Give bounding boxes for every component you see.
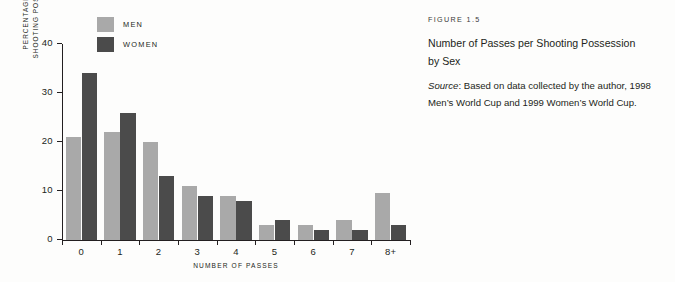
figure-source-text: : Based on data collected by the author,… <box>428 80 651 108</box>
bar-women-7 <box>352 230 368 240</box>
y-axis-tick: 30 <box>57 92 62 93</box>
y-axis-title-line-1: PERCENTAGE OF ALL <box>21 0 31 49</box>
figure-source-label: Source <box>428 80 458 91</box>
x-axis-tick <box>294 240 295 245</box>
bar-chart: PERCENTAGE OF ALL SHOOTING POSSESSIONS 0… <box>0 0 420 282</box>
bar-men-0 <box>66 137 82 240</box>
bar-men-7 <box>336 220 352 240</box>
plot-area: 010203040 012345678+ <box>62 44 410 240</box>
bar-women-2 <box>159 176 175 240</box>
x-axis-tick-label: 5 <box>272 246 278 257</box>
bar-women-4 <box>236 201 252 240</box>
x-axis-tick-label: 0 <box>79 246 85 257</box>
y-axis-tick: 10 <box>57 190 62 191</box>
legend-item-women: WOMEN <box>97 34 158 54</box>
x-axis-tick-label: 6 <box>311 246 317 257</box>
x-axis-tick <box>371 240 372 245</box>
figure-title: Number of Passes per Shooting Possession… <box>428 35 638 70</box>
x-axis-tick <box>178 240 179 245</box>
legend: MEN WOMEN <box>97 14 158 54</box>
x-axis-tick <box>139 240 140 245</box>
bar-men-3 <box>182 186 198 240</box>
x-axis-tick <box>255 240 256 245</box>
bar-women-0 <box>82 73 98 240</box>
bar-women-5 <box>275 220 291 240</box>
bar-men-1 <box>104 132 120 240</box>
figure-source: Source: Based on data collected by the a… <box>428 77 656 111</box>
x-axis-tick-label: 7 <box>349 246 355 257</box>
legend-item-men: MEN <box>97 14 158 34</box>
bar-women-1 <box>120 113 136 240</box>
legend-swatch-women-icon <box>97 37 114 52</box>
y-axis-title-line-2: SHOOTING POSSESSIONS <box>31 0 41 59</box>
legend-swatch-men-icon <box>97 17 114 32</box>
x-axis-line <box>62 240 410 241</box>
x-axis-tick <box>217 240 218 245</box>
figure-caption: FIGURE 1.5 Number of Passes per Shooting… <box>428 15 668 111</box>
y-axis-tick: 40 <box>57 43 62 44</box>
bar-women-6 <box>314 230 330 240</box>
y-axis-tick-label: 40 <box>42 37 53 48</box>
legend-label-men: MEN <box>123 20 143 29</box>
bar-men-5 <box>259 225 275 240</box>
x-axis-title: NUMBER OF PASSES <box>62 262 410 269</box>
x-axis-tick <box>62 240 63 245</box>
y-axis-line <box>62 44 63 240</box>
y-axis-tick: 20 <box>57 141 62 142</box>
legend-label-women: WOMEN <box>123 40 158 49</box>
x-axis-tick <box>333 240 334 245</box>
x-axis-tick-label: 8+ <box>385 246 396 257</box>
x-axis-tick-label: 4 <box>233 246 239 257</box>
y-axis-tick-label: 20 <box>42 135 53 146</box>
bar-men-4 <box>220 196 236 240</box>
x-axis-tick <box>410 240 411 245</box>
bar-men-6 <box>298 225 314 240</box>
x-axis-tick <box>101 240 102 245</box>
x-axis-tick-label: 2 <box>156 246 162 257</box>
bar-men-8+ <box>375 193 391 240</box>
y-axis-tick-label: 0 <box>47 233 53 244</box>
bar-women-3 <box>198 196 214 240</box>
y-axis-tick-label: 30 <box>42 86 53 97</box>
y-axis-tick-label: 10 <box>42 184 53 195</box>
figure-root: PERCENTAGE OF ALL SHOOTING POSSESSIONS 0… <box>0 0 675 282</box>
x-axis-tick-label: 3 <box>195 246 201 257</box>
figure-number: FIGURE 1.5 <box>428 15 668 24</box>
x-axis-tick-label: 1 <box>117 246 123 257</box>
bar-women-8+ <box>391 225 407 240</box>
bar-men-2 <box>143 142 159 240</box>
